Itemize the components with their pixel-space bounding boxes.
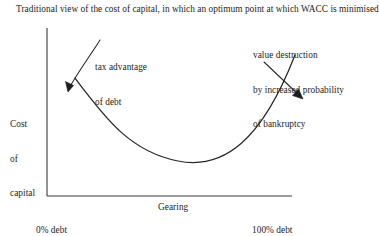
x-axis-left-label-line-1: 0% debt — [36, 225, 84, 236]
annotation-value-destruction-line-1: value destruction — [253, 50, 344, 62]
x-axis-label: Gearing — [158, 202, 188, 214]
x-axis-right-label-line-1: 100% debt — [252, 225, 292, 236]
annotation-value-destruction-line-2: by increased probability — [253, 85, 344, 97]
annotation-tax-advantage: tax advantage of debt — [95, 39, 147, 131]
y-axis-label-line-3: capital — [10, 188, 35, 200]
figure-canvas: Traditional view of the cost of capital,… — [0, 0, 379, 236]
annotation-value-destruction-line-3: of bankruptcy — [253, 119, 344, 131]
x-axis-right-label: 100% debt 0% equity — [252, 202, 292, 236]
y-axis-label-line-1: Cost — [10, 119, 35, 131]
annotation-value-destruction: value destruction by increased probabili… — [253, 27, 344, 154]
y-axis-label: Cost of capital — [10, 96, 35, 223]
y-axis-label-line-2: of — [10, 154, 35, 166]
annotation-tax-advantage-line-1: tax advantage — [95, 62, 147, 74]
annotation-tax-advantage-line-2: of debt — [95, 97, 147, 109]
x-axis-left-label: 0% debt 100% equity — [36, 202, 84, 236]
